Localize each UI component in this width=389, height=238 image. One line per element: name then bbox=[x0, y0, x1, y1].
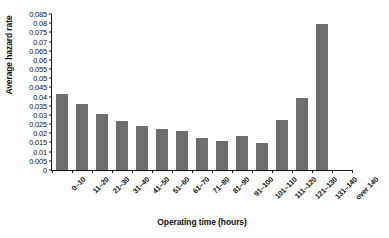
y-axis-tick: 0.015 bbox=[29, 138, 52, 147]
x-axis-tick-mark bbox=[272, 170, 273, 173]
y-axis-tick-label: 0.06 bbox=[33, 55, 49, 64]
x-axis-tick-mark bbox=[112, 170, 113, 173]
bar-series bbox=[52, 14, 352, 170]
bar-slot bbox=[256, 14, 268, 170]
y-axis-tick: 0.055 bbox=[29, 65, 52, 74]
x-axis-tick-label: 81–90 bbox=[231, 175, 251, 195]
x-axis-tick-mark bbox=[92, 170, 93, 173]
x-axis-tick-label: 41–50 bbox=[151, 175, 171, 195]
bar-slot bbox=[156, 14, 168, 170]
bar bbox=[256, 143, 268, 170]
bar-slot bbox=[136, 14, 148, 170]
x-axis-title: Operating time (hours) bbox=[52, 217, 352, 227]
bar bbox=[136, 126, 148, 170]
x-axis-tick-mark bbox=[212, 170, 213, 173]
x-axis-tick-label: 11–20 bbox=[91, 175, 111, 195]
x-axis-tick-label: 91–100 bbox=[252, 175, 275, 198]
bar bbox=[316, 24, 328, 170]
bar bbox=[296, 98, 308, 170]
y-axis-tick: 0.08 bbox=[33, 19, 52, 28]
y-axis-tick-label: 0.03 bbox=[33, 110, 49, 119]
y-axis-tick-label: 0.055 bbox=[29, 65, 49, 74]
bar-slot bbox=[76, 14, 88, 170]
y-axis-tick: 0.005 bbox=[29, 156, 52, 165]
y-axis-tick-label: 0.08 bbox=[33, 19, 49, 28]
hazard-rate-bar-chart: Average hazard rate 00.0050.010.0150.020… bbox=[0, 0, 389, 238]
y-axis-tick: 0.085 bbox=[29, 10, 52, 19]
y-axis-tick: 0.07 bbox=[33, 37, 52, 46]
x-axis-tick-label: 0–10 bbox=[70, 175, 88, 193]
bar-slot bbox=[116, 14, 128, 170]
bar-slot bbox=[316, 14, 328, 170]
y-axis-tick-label: 0.01 bbox=[33, 147, 49, 156]
bar bbox=[276, 120, 288, 170]
bar bbox=[116, 121, 128, 170]
plot-area: 00.0050.010.0150.020.0250.030.0350.040.0… bbox=[52, 14, 352, 170]
bar-slot bbox=[236, 14, 248, 170]
x-axis-tick-label: 61–70 bbox=[191, 175, 211, 195]
bar bbox=[216, 141, 228, 170]
y-axis-tick-label: 0.07 bbox=[33, 37, 49, 46]
y-axis-tick-label: 0.085 bbox=[29, 10, 49, 19]
bar bbox=[76, 104, 88, 170]
y-axis-tick-label: 0.005 bbox=[29, 156, 49, 165]
x-axis-tick-mark bbox=[52, 170, 53, 173]
bar bbox=[156, 129, 168, 170]
x-axis-tick-mark bbox=[152, 170, 153, 173]
y-axis-tick: 0.025 bbox=[29, 120, 52, 129]
bar-slot bbox=[56, 14, 68, 170]
y-axis-tick-label: 0.04 bbox=[33, 92, 49, 101]
y-axis-tick-label: 0.035 bbox=[29, 101, 49, 110]
bar-slot bbox=[196, 14, 208, 170]
x-axis-tick-mark bbox=[292, 170, 293, 173]
y-axis-tick: 0.06 bbox=[33, 55, 52, 64]
y-axis-tick-label: 0.075 bbox=[29, 28, 49, 37]
x-axis-tick-label: 71–80 bbox=[211, 175, 231, 195]
x-axis-tick-mark bbox=[132, 170, 133, 173]
bar bbox=[236, 136, 248, 170]
y-axis-tick: 0.035 bbox=[29, 101, 52, 110]
bar bbox=[56, 94, 68, 170]
y-axis-tick-label: 0.045 bbox=[29, 83, 49, 92]
bar bbox=[96, 114, 108, 170]
bar-slot bbox=[216, 14, 228, 170]
y-axis-tick: 0.075 bbox=[29, 28, 52, 37]
x-axis-tick-mark bbox=[252, 170, 253, 173]
bar-slot bbox=[276, 14, 288, 170]
y-axis-title: Average hazard rate bbox=[4, 0, 14, 115]
x-axis-tick-mark bbox=[172, 170, 173, 173]
y-axis-tick-label: 0.025 bbox=[29, 120, 49, 129]
bar-slot bbox=[336, 14, 348, 170]
y-axis-tick: 0.03 bbox=[33, 110, 52, 119]
bar-slot bbox=[96, 14, 108, 170]
x-axis-line bbox=[51, 170, 352, 171]
x-axis-tick-mark bbox=[72, 170, 73, 173]
bar-slot bbox=[296, 14, 308, 170]
y-axis-tick: 0 bbox=[43, 166, 52, 175]
x-axis-tick-mark bbox=[192, 170, 193, 173]
y-axis-tick: 0.04 bbox=[33, 92, 52, 101]
x-axis-tick-label: 51–60 bbox=[171, 175, 191, 195]
x-axis-tick-mark bbox=[332, 170, 333, 173]
bar-slot bbox=[176, 14, 188, 170]
y-axis-tick: 0.01 bbox=[33, 147, 52, 156]
x-axis-tick-label: 21–30 bbox=[111, 175, 131, 195]
y-axis-tick-label: 0.05 bbox=[33, 74, 49, 83]
y-axis-tick-label: 0.02 bbox=[33, 129, 49, 138]
y-axis-tick: 0.065 bbox=[29, 46, 52, 55]
y-axis-tick: 0.02 bbox=[33, 129, 52, 138]
x-axis-tick-mark bbox=[352, 170, 353, 173]
y-axis-tick: 0.045 bbox=[29, 83, 52, 92]
x-axis-tick-label: 31–40 bbox=[131, 175, 151, 195]
bar bbox=[176, 131, 188, 170]
y-axis-tick-label: 0.015 bbox=[29, 138, 49, 147]
x-axis-tick-mark bbox=[312, 170, 313, 173]
x-axis-tick-mark bbox=[232, 170, 233, 173]
y-axis-tick: 0.05 bbox=[33, 74, 52, 83]
y-axis-tick-label: 0.065 bbox=[29, 46, 49, 55]
bar bbox=[196, 138, 208, 170]
